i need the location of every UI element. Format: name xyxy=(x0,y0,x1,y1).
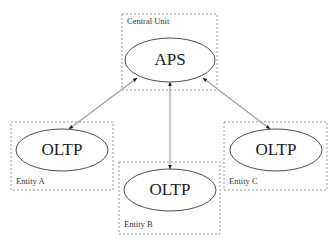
link-aps-oltp-c xyxy=(203,78,270,129)
diagram-canvas: APS OLTP OLTP OLTP Central Unit Entity A… xyxy=(0,0,336,242)
group-label-entity-b: Entity B xyxy=(124,219,153,229)
node-label-oltp-a: OLTP xyxy=(42,140,83,159)
group-label-central-unit: Central Unit xyxy=(127,16,170,26)
caption-strip xyxy=(0,234,336,242)
architecture-diagram: APS OLTP OLTP OLTP Central Unit Entity A… xyxy=(0,0,336,242)
group-label-entity-a: Entity A xyxy=(16,176,45,186)
node-aps[interactable]: APS xyxy=(125,38,215,82)
node-oltp-b[interactable]: OLTP xyxy=(124,169,216,211)
link-aps-oltp-a xyxy=(69,78,137,129)
node-label-oltp-b: OLTP xyxy=(150,180,191,199)
group-label-entity-c: Entity C xyxy=(229,176,258,186)
node-oltp-a[interactable]: OLTP xyxy=(16,129,108,171)
node-label-oltp-c: OLTP xyxy=(256,140,297,159)
node-label-aps: APS xyxy=(154,50,185,69)
node-oltp-c[interactable]: OLTP xyxy=(230,129,322,171)
